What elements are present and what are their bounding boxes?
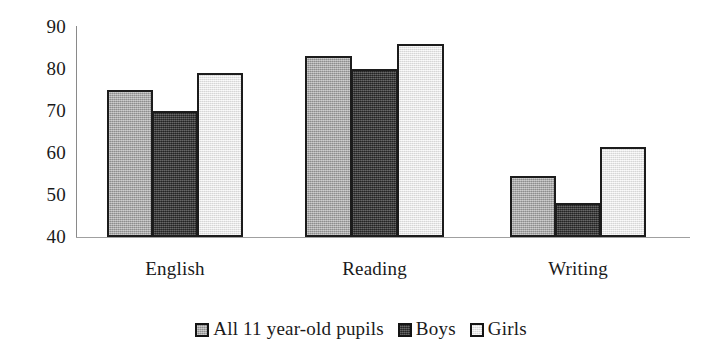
bar-english-all[interactable] — [107, 90, 153, 237]
y-tick-label: 60 — [24, 143, 66, 162]
y-tick-label: 70 — [24, 101, 66, 120]
bar-english-boys[interactable] — [152, 111, 198, 237]
legend-item-girls[interactable]: Girls — [470, 318, 527, 340]
y-tick-label: 80 — [24, 59, 66, 78]
legend-swatch-icon — [398, 323, 412, 337]
bar-chart: 90 80 70 60 50 40 English Re — [0, 0, 722, 363]
y-tick-label: 90 — [24, 17, 66, 36]
bar-reading-boys[interactable] — [351, 69, 398, 237]
legend-label: Boys — [416, 318, 456, 340]
legend-item-boys[interactable]: Boys — [398, 318, 456, 340]
bar-reading-girls[interactable] — [397, 44, 444, 237]
legend-swatch-icon — [470, 323, 484, 337]
bar-reading-all[interactable] — [305, 56, 352, 237]
legend-item-all-pupils[interactable]: All 11 year-old pupils — [195, 318, 384, 340]
x-axis-baseline — [76, 237, 690, 238]
category-label-english: English — [107, 258, 243, 280]
bar-english-girls[interactable] — [197, 73, 243, 237]
y-tick-label: 50 — [24, 185, 66, 204]
legend-label: All 11 year-old pupils — [213, 318, 384, 340]
legend-label: Girls — [488, 318, 527, 340]
legend-swatch-icon — [195, 323, 209, 337]
bar-writing-all[interactable] — [510, 176, 556, 237]
y-tick-label: 40 — [24, 227, 66, 246]
chart-legend: All 11 year-old pupils Boys Girls — [0, 318, 722, 340]
category-label-writing: Writing — [510, 258, 646, 280]
y-axis-line — [76, 26, 77, 238]
bar-writing-boys[interactable] — [555, 203, 601, 237]
bar-writing-girls[interactable] — [600, 147, 646, 237]
category-label-reading: Reading — [305, 258, 444, 280]
